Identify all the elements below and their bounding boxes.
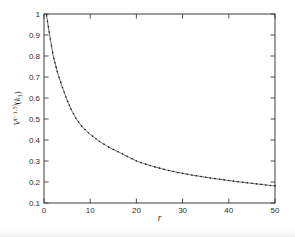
- data-curve-marker: [122, 153, 124, 155]
- data-curve-marker: [78, 121, 80, 123]
- data-curve-marker: [63, 91, 65, 93]
- curve-layer: [46, 14, 276, 187]
- x-tick-label: 50: [271, 206, 280, 215]
- data-curve-marker: [117, 151, 119, 153]
- plot-box: [44, 14, 275, 203]
- y-tick-label: 0.7: [29, 73, 41, 82]
- data-curve-marker: [186, 173, 188, 175]
- data-curve-marker: [228, 180, 230, 182]
- data-curve-marker: [182, 173, 184, 175]
- data-curve: [46, 14, 275, 186]
- data-curve-marker: [48, 31, 50, 33]
- data-curve-marker: [219, 178, 221, 180]
- data-curve-marker: [191, 174, 193, 176]
- data-curve-marker: [88, 132, 90, 134]
- x-tick-label: 10: [86, 206, 95, 215]
- data-curve-marker: [46, 15, 48, 17]
- data-curve-marker: [177, 172, 179, 174]
- data-curve-marker: [140, 162, 142, 164]
- data-curve-marker: [54, 62, 56, 64]
- data-curve-marker: [81, 125, 83, 127]
- axis-ticks-layer: 010203040500.10.20.30.40.50.60.70.80.91: [29, 10, 280, 215]
- data-curve-marker: [256, 183, 258, 185]
- y-tick-label: 0.1: [29, 199, 41, 208]
- data-curve-marker: [145, 163, 147, 165]
- data-curve-marker: [223, 179, 225, 181]
- data-curve-marker: [60, 82, 62, 84]
- data-curve-marker: [69, 105, 71, 107]
- y-tick-label: 0.4: [29, 136, 41, 145]
- plot-svg: 010203040500.10.20.30.40.50.60.70.80.91 …: [0, 0, 295, 237]
- data-curve-marker: [214, 178, 216, 180]
- data-curve-marker: [274, 185, 276, 187]
- data-curve-marker: [70, 108, 72, 110]
- data-curve-marker: [136, 160, 138, 162]
- data-curve-marker: [149, 165, 151, 167]
- data-curve-marker: [55, 66, 57, 68]
- y-label-paren-close: ): [12, 91, 22, 94]
- data-curve-marker: [251, 183, 253, 185]
- data-curve-marker: [210, 177, 212, 179]
- data-curve-marker: [53, 57, 55, 59]
- data-curve-marker: [51, 45, 53, 47]
- data-curve-marker: [246, 182, 248, 184]
- y-tick-label: 1: [36, 10, 41, 19]
- data-curve-marker: [52, 52, 54, 54]
- y-tick-label: 0.3: [29, 157, 41, 166]
- data-curve-marker: [163, 169, 165, 171]
- data-curve-marker: [75, 117, 77, 119]
- figure-canvas: 010203040500.10.20.30.40.50.60.70.80.91 …: [0, 0, 295, 237]
- data-curve-marker: [67, 101, 69, 103]
- y-tick-label: 0.9: [29, 31, 41, 40]
- data-curve-marker: [58, 76, 60, 78]
- data-curve-marker: [270, 185, 272, 187]
- y-label-superscript: (−1.5): [11, 104, 19, 120]
- data-curve-marker: [73, 113, 75, 115]
- data-curve-marker: [99, 141, 101, 143]
- data-curve-marker: [95, 138, 97, 140]
- y-tick-label: 0.2: [29, 178, 41, 187]
- data-curve-marker: [126, 156, 128, 158]
- data-curve-marker: [237, 181, 239, 183]
- y-axis-label: V(−1.5)(k1): [11, 91, 24, 125]
- data-curve-marker: [50, 38, 52, 40]
- data-curve-marker: [168, 170, 170, 172]
- data-curve-marker: [200, 176, 202, 178]
- data-curve-marker: [47, 21, 49, 23]
- x-tick-label: 0: [42, 206, 47, 215]
- y-tick-label: 0.8: [29, 52, 41, 61]
- data-curve-marker: [113, 149, 115, 151]
- data-curve-marker: [205, 176, 207, 178]
- data-curve-marker: [108, 146, 110, 148]
- data-curve-marker: [233, 180, 235, 182]
- data-curve-marker: [103, 144, 105, 146]
- data-curve-marker: [56, 71, 58, 73]
- x-tick-label: 30: [178, 206, 187, 215]
- data-curve-marker: [196, 175, 198, 177]
- data-curve-marker: [48, 26, 50, 28]
- data-curve-marker: [242, 182, 244, 184]
- x-axis-label: r: [158, 213, 162, 223]
- y-tick-label: 0.6: [29, 94, 41, 103]
- data-curve-marker: [62, 87, 64, 89]
- data-curve-marker: [154, 166, 156, 168]
- data-curve-marker: [159, 167, 161, 169]
- data-curve-marker: [173, 171, 175, 173]
- data-curve-marker: [260, 184, 262, 186]
- data-curve-marker: [84, 129, 86, 131]
- x-tick-label: 40: [224, 206, 233, 215]
- data-curve-marker: [131, 158, 133, 160]
- data-curve-marker: [65, 96, 67, 98]
- x-tick-label: 20: [132, 206, 141, 215]
- data-curve-marker: [92, 135, 94, 137]
- data-curve-marker: [265, 184, 267, 186]
- y-tick-label: 0.5: [29, 115, 41, 124]
